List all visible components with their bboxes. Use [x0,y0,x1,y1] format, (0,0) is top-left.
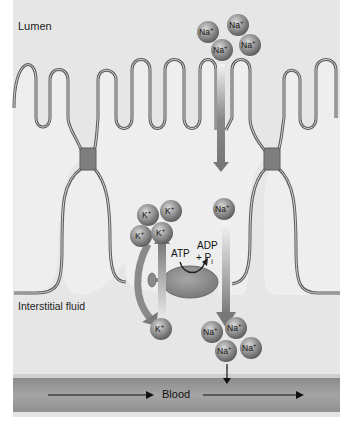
ion-label-na: Na+ [227,322,241,333]
tight-junction-left [80,148,96,170]
ion-label-k: K+ [156,227,165,238]
ion-label-k: K+ [142,209,151,220]
lumen-label: Lumen [18,20,52,32]
epithelial-sodium-transport-diagram: Lumen Interstitial fluid Blood ATP ADP +… [0,0,353,427]
ion-label-na: Na+ [242,342,256,353]
blood-label: Blood [162,388,190,400]
ion-label-k: K+ [155,323,164,334]
tight-junction-right [264,148,280,170]
ion-label-k: K+ [135,230,144,241]
ion-label-na: Na+ [215,203,229,214]
ion-label-k: K+ [165,205,174,216]
interstitial-fluid-label: Interstitial fluid [18,300,85,312]
ion-label-na: Na+ [229,19,243,30]
ion-label-na: Na+ [241,39,255,50]
ion-label-na: Na+ [213,44,227,55]
atp-label: ATP [171,248,190,259]
phosphate-label: + Pi [196,252,213,265]
ion-label-na: Na+ [199,26,213,37]
ion-label-na: Na+ [217,345,231,356]
ion-label-na: Na+ [203,326,217,337]
sodium-potassium-pump [162,266,218,298]
adp-label: ADP [197,240,218,251]
